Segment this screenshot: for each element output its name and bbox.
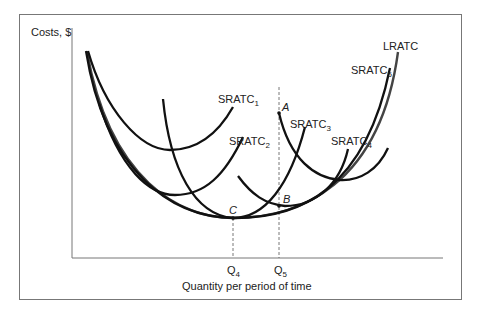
sratc1-label: SRATC1: [218, 93, 259, 108]
sratc3-label: SRATC3: [290, 118, 331, 133]
y-axis-label: Costs, $: [31, 26, 71, 38]
point-a: [277, 111, 281, 115]
point-a-label: A: [281, 101, 289, 113]
q4-tick: Q4: [227, 264, 241, 279]
cost-curves-diagram: Costs, $ Quantity per period of time Qua…: [0, 0, 481, 317]
sratc5-label: SRATC5: [351, 64, 392, 79]
sratc1-curve: [88, 51, 233, 150]
sratc2-label: SRATC2: [229, 135, 270, 150]
point-c: [231, 216, 235, 220]
point-b: [277, 204, 281, 208]
point-b-label: B: [283, 193, 290, 205]
x-axis-title: Quantity per period of time: [182, 280, 312, 292]
q5-tick: Q5: [274, 264, 288, 279]
sratc4-curve: [238, 149, 348, 206]
point-c-label: C: [229, 204, 237, 216]
lratc-label: LRATC: [383, 40, 418, 52]
